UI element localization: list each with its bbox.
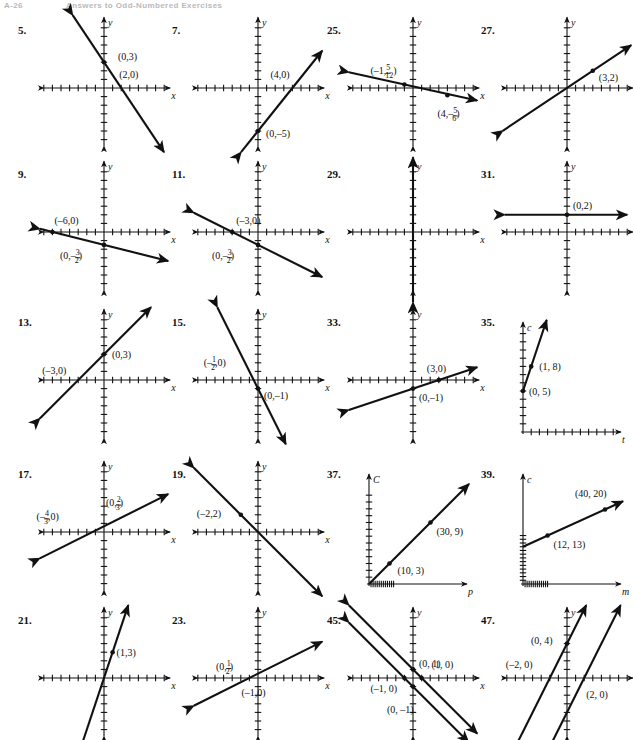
y-axis-label: y [416, 607, 422, 618]
running-head: Answers to Odd-Numbered Exercises [66, 1, 222, 10]
figure-number: 33. [327, 316, 341, 328]
figure-number: 45. [327, 614, 341, 626]
coordinate-plot: xy(0,3)(2,0) [42, 24, 168, 162]
figure-number: 39. [481, 468, 495, 480]
plotted-point [102, 352, 107, 357]
graph-line [552, 605, 621, 740]
point-label: (–1, 0) [370, 683, 397, 695]
plotted-point [402, 676, 407, 681]
y-axis-label: y [416, 17, 422, 28]
plotted-point [437, 378, 442, 383]
point-label: (0,–5) [266, 128, 290, 140]
figure-37: 37.pC(10, 3)(30, 9) [327, 468, 477, 608]
axes-group: xy [507, 607, 633, 736]
y-axis-label: y [261, 17, 267, 28]
plotted-point [529, 364, 534, 369]
point-label: (0,–1) [419, 392, 443, 404]
axes-group: xy [507, 161, 633, 290]
figure-number: 11. [172, 168, 185, 180]
coordinate-plot: xy(1,3) [42, 614, 168, 740]
graph-line [73, 15, 164, 152]
coordinate-plot: xy(–12,0)(0,–1) [196, 316, 322, 454]
point-label: (0, 4) [531, 635, 553, 647]
figure-number: 31. [481, 168, 495, 180]
plotted-point [387, 561, 392, 566]
point-group: (–3,0)(0,–32) [212, 215, 260, 265]
coordinate-plot: xy(–2,2) [196, 468, 322, 606]
point-label: (10, 3) [398, 565, 425, 577]
point-label: (40, 20) [575, 488, 607, 500]
plotted-point [239, 513, 244, 518]
plotted-point [591, 69, 596, 74]
coordinate-plot: pC(10, 3)(30, 9) [351, 468, 477, 606]
point-label: (3,0) [427, 363, 446, 375]
axes-group: xy [198, 17, 330, 146]
y-axis-label: y [570, 17, 576, 28]
graph-line [518, 605, 587, 740]
figure-number: 5. [18, 24, 26, 36]
y-axis-label: y [416, 161, 422, 172]
y-axis-label: c [527, 322, 532, 333]
coordinate-plot: xy(3,2) [505, 24, 631, 162]
graph-line [217, 307, 285, 444]
coordinate-plot: xy(–1,512)(4,–56) [351, 24, 477, 162]
point-label: (–3,0) [42, 365, 66, 377]
axes-group: xy [353, 161, 485, 290]
y-axis-label: y [107, 309, 113, 320]
point-label: (1,3) [117, 647, 136, 659]
figure-number: 21. [18, 614, 32, 626]
figure-21: 21.xy(1,3) [18, 614, 168, 740]
x-axis-label: m [622, 586, 629, 597]
axes-group: xy [44, 17, 176, 146]
y-axis-label: y [570, 161, 576, 172]
figure-number: 23. [172, 614, 186, 626]
point-label: (4,–56) [437, 106, 459, 123]
point-label: (0,–1) [264, 390, 288, 402]
coordinate-plot: xy [351, 168, 477, 306]
plotted-point [445, 93, 450, 98]
figure-27: 27.xy(3,2) [481, 24, 631, 164]
point-label: (–43,0) [37, 509, 59, 526]
axes-group: xy [353, 607, 485, 736]
point-label: (–3,0) [236, 215, 260, 227]
answer-key-page: A-26 Answers to Odd-Numbered Exercises 5… [0, 0, 633, 740]
page-folio: A-26 [4, 1, 23, 10]
figure-number: 27. [481, 24, 495, 36]
axes-group: xy [353, 17, 485, 146]
plotted-point [411, 667, 416, 672]
plotted-point [50, 230, 55, 235]
coordinate-plot: xy(0, 4)(–2, 0)(2, 0) [505, 614, 631, 740]
point-label: (–12,0) [204, 355, 226, 372]
y-axis-label: y [261, 607, 267, 618]
line-group [83, 605, 129, 740]
y-axis-label: C [373, 474, 380, 485]
y-axis-label: y [416, 309, 422, 320]
point-label: (0,3) [118, 51, 137, 63]
plotted-point [565, 213, 570, 218]
point-label: (–6,0) [54, 215, 78, 227]
line-group [518, 605, 621, 740]
figure-13: 13.xy(0,3)(–3,0) [18, 316, 168, 456]
point-label: (0,12) [216, 659, 233, 676]
plotted-point [428, 520, 433, 525]
coordinate-plot: xy(0,12)(–1,0) [196, 614, 322, 740]
graph-line [349, 622, 469, 740]
line-group [73, 15, 164, 152]
coordinate-plot: xy(0,2) [505, 168, 631, 306]
y-axis-label: y [261, 161, 267, 172]
figure-47: 47.xy(0, 4)(–2, 0)(2, 0) [481, 614, 631, 740]
x-axis-label: t [622, 434, 625, 445]
figure-number: 17. [18, 468, 32, 480]
plotted-point [256, 243, 261, 248]
y-axis-label: y [107, 461, 113, 472]
point-label: (0,2) [573, 200, 592, 212]
y-axis-label: y [107, 607, 113, 618]
plotted-point [411, 684, 416, 689]
point-label: (1, 0) [432, 659, 454, 671]
point-label: (12, 13) [554, 539, 586, 551]
point-label: (0,3) [112, 349, 131, 361]
point-label: (–2, 0) [506, 659, 533, 671]
line-group [40, 307, 151, 418]
figure-25: 25.xy(–1,512)(4,–56) [327, 24, 477, 164]
plotted-point [419, 676, 424, 681]
